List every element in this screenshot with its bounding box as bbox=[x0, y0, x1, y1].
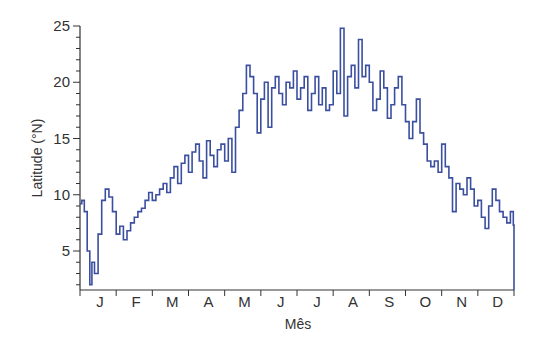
x-tick-label: O bbox=[420, 293, 432, 310]
y-tick-label: 15 bbox=[53, 130, 70, 147]
latitude-line bbox=[80, 28, 514, 290]
latitude-chart: 510152025 JFMAMJJASOND Latitude (°N) Mês bbox=[0, 0, 542, 343]
x-tick-label: A bbox=[348, 293, 358, 310]
x-tick-label: F bbox=[131, 293, 140, 310]
x-tick-label: S bbox=[384, 293, 394, 310]
y-tick-label: 10 bbox=[53, 186, 70, 203]
x-tick-label: D bbox=[492, 293, 503, 310]
y-tick-label: 20 bbox=[53, 73, 70, 90]
x-tick-label: J bbox=[96, 293, 104, 310]
y-tick-label: 5 bbox=[62, 242, 70, 259]
x-tick-label: M bbox=[238, 293, 251, 310]
x-axis: JFMAMJJASOND bbox=[80, 290, 514, 310]
x-tick-label: J bbox=[313, 293, 321, 310]
y-axis: 510152025 bbox=[53, 17, 80, 290]
y-axis-title: Latitude (°N) bbox=[29, 119, 45, 198]
x-axis-title: Mês bbox=[285, 316, 311, 332]
x-tick-label: N bbox=[456, 293, 467, 310]
y-tick-label: 25 bbox=[53, 17, 70, 34]
x-tick-label: A bbox=[203, 293, 213, 310]
x-tick-label: J bbox=[277, 293, 285, 310]
x-tick-label: M bbox=[166, 293, 179, 310]
